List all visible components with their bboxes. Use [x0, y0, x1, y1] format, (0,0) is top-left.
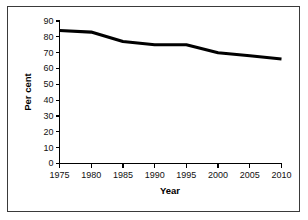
y-tick-label: 30 — [43, 111, 53, 121]
x-tick-label: 1980 — [81, 170, 101, 180]
x-tick-label: 2000 — [208, 170, 228, 180]
x-tick-label: 2005 — [240, 170, 260, 180]
x-tick-label: 1995 — [176, 170, 196, 180]
y-tick-label: 60 — [43, 63, 53, 73]
x-axis-tick-labels: 19751980198519901995200020052010 — [49, 170, 291, 180]
y-tick-label: 50 — [43, 79, 53, 89]
data-series-line — [60, 31, 282, 60]
y-tick-label: 10 — [43, 143, 53, 153]
x-tick-label: 1975 — [49, 170, 69, 180]
x-axis: 19751980198519901995200020052010 — [49, 164, 291, 180]
y-axis: 0102030405060708090 — [43, 16, 59, 169]
y-tick-label: 90 — [43, 16, 53, 26]
y-tick-label: 40 — [43, 95, 53, 105]
y-tick-label: 70 — [43, 48, 53, 58]
x-axis-title: Year — [160, 185, 180, 196]
x-tick-label: 1990 — [145, 170, 165, 180]
x-tick-label: 2010 — [271, 170, 291, 180]
y-tick-label: 20 — [43, 127, 53, 137]
line-chart: 0102030405060708090 19751980198519901995… — [0, 0, 308, 220]
y-tick-label: 80 — [43, 32, 53, 42]
x-tick-label: 1985 — [113, 170, 133, 180]
y-tick-label: 0 — [48, 158, 53, 168]
chart-figure: 0102030405060708090 19751980198519901995… — [0, 0, 308, 220]
y-axis-title: Per cent — [22, 72, 33, 110]
y-axis-tick-labels: 0102030405060708090 — [43, 16, 53, 169]
